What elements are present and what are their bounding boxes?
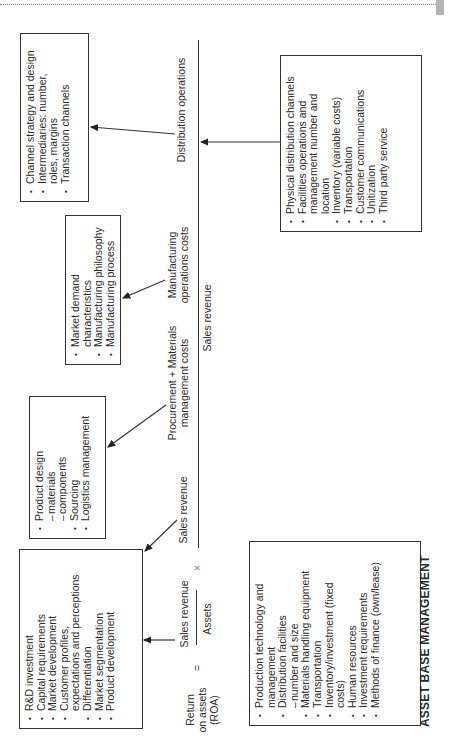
list-item: Production technology and [254, 548, 266, 717]
manufacturing-factors-box: Market demand characteristics Manufactur… [65, 215, 121, 365]
list-item: costs) [335, 548, 347, 717]
list-item: Transaction channels [60, 40, 72, 193]
axis-label-sales-revenue-below: Sales revenue [202, 278, 214, 358]
equals-sign: = [192, 662, 204, 674]
times-sign: × [192, 562, 204, 574]
revenue-axis-line [198, 40, 199, 548]
axis-label-sales-revenue: Sales revenue [178, 474, 190, 546]
axis-label-manufacturing: Manufacturing operations costs [166, 210, 190, 320]
list-item: Logistics management [80, 403, 92, 530]
list-item: Differentiation [82, 556, 94, 720]
list-item: Transportation [312, 548, 324, 717]
list-item: Product design [34, 403, 46, 530]
arrow-manufacturing-to-manufacturing-box [123, 280, 165, 298]
asset-base-factors-box: Production technology and management Dis… [249, 541, 421, 726]
roa-diagram: Return on assets (ROA) = Sales revenue A… [0, 0, 449, 748]
list-item: Third party service [378, 62, 390, 223]
list-item: Channel strategy and design [25, 40, 37, 193]
procurement-factors-box: Product design materials components Sour… [29, 396, 106, 539]
list-item: Manufacturing process [105, 222, 117, 356]
arrow-procurement-to-procurement-box [108, 405, 166, 447]
fraction-denominator: Assets [202, 590, 214, 648]
roa-label: Return on assets (ROA) [184, 680, 220, 740]
list-item: Transportation [343, 62, 355, 223]
axis-label-distribution: Distribution operations [176, 50, 188, 170]
fraction-numerator: Sales revenue [179, 580, 191, 648]
marketing-factors-box: R&D investment Capital requirements Mark… [19, 549, 143, 729]
channel-factors-box: Channel strategy and design Intermediari… [20, 33, 89, 202]
fraction-bar [196, 590, 197, 645]
list-item: Product development [105, 556, 117, 720]
list-item: Market demand [70, 222, 82, 356]
arrow-distribution-to-channel-box [91, 127, 175, 134]
list-item: Physical distribution channels [285, 62, 297, 223]
list-item: R&D investment [24, 556, 36, 720]
section-title: ASSET BASE MANAGEMENT [420, 555, 432, 727]
list-item: Methods of finance (own/lease) [370, 548, 382, 717]
physical-distribution-factors-box: Physical distribution channels Facilitie… [280, 55, 422, 232]
list-item: Unitization [366, 62, 378, 223]
arrow-sales-to-marketing [145, 520, 177, 551]
axis-label-procurement: Procurement + Materials management costs [166, 318, 190, 448]
